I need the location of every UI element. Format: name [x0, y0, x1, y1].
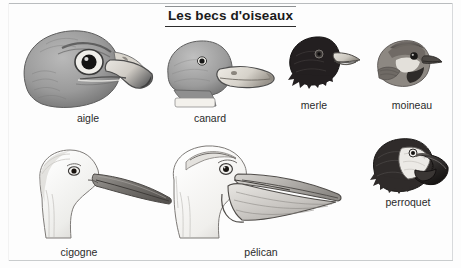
caption-pelican: pélican	[196, 246, 326, 258]
duck-head-icon	[158, 36, 280, 112]
page-right-rule	[452, 3, 453, 261]
figure-canard	[158, 36, 280, 112]
bird-beaks-figure-page: Les becs d'oiseaux	[0, 0, 461, 268]
eagle-head-icon	[18, 26, 158, 112]
page-title-wrap: Les becs d'oiseaux	[0, 6, 461, 27]
caption-moineau: moineau	[372, 99, 452, 111]
sparrow-head-icon	[374, 30, 444, 96]
pelican-head-icon	[150, 136, 346, 242]
figure-merle	[284, 32, 362, 98]
caption-cigogne: cigogne	[14, 246, 144, 258]
page-title: Les becs d'oiseaux	[165, 6, 296, 27]
page-top-rule	[8, 3, 453, 4]
figure-perroquet	[368, 136, 450, 198]
figure-moineau	[374, 30, 444, 96]
caption-aigle: aigle	[18, 112, 158, 124]
figure-pelican	[150, 136, 346, 242]
blackbird-head-icon	[284, 32, 362, 98]
figure-aigle	[18, 26, 158, 112]
page-bottom-rule	[8, 260, 453, 261]
caption-canard: canard	[150, 112, 270, 124]
caption-merle: merle	[278, 99, 350, 111]
parrot-head-icon	[368, 136, 450, 198]
page-left-rule	[8, 3, 9, 261]
caption-perroquet: perroquet	[364, 196, 452, 208]
